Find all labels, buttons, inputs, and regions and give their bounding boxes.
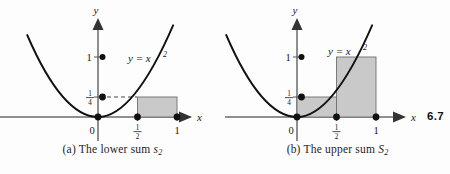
panel-b: y x 0 1 1 4 1 2 1 y = x 2 [225, 0, 450, 174]
x-tick-label-half-a: 1 2 [134, 124, 142, 141]
x-axis-arrow-b [393, 112, 406, 123]
curve-label-exponent-a: 2 [163, 50, 167, 59]
upper-sum-rectangle-b-2 [337, 57, 377, 117]
y-tick-quarter-numerator-a: 1 [88, 90, 92, 98]
caption-b: (b) The upper sum S2 [225, 143, 450, 157]
origin-label-a: 0 [89, 125, 94, 136]
x-tick-half-denominator-a: 2 [136, 133, 140, 141]
y-axis-arrow-b [292, 18, 303, 30]
x-tick-half-numerator-b: 1 [335, 124, 339, 132]
y-tick-quarter-denominator-a: 4 [88, 99, 92, 107]
origin-label-b: 0 [288, 125, 293, 136]
y-tick-quarter-denominator-b: 4 [287, 99, 291, 107]
y-tick-quarter-numerator-b: 1 [287, 90, 291, 98]
figure-6-7: y x 0 1 1 4 1 2 1 y = x 2 [0, 0, 450, 174]
caption-prefix-b: (b) [287, 143, 301, 155]
y-tick-label-quarter-a: 1 4 [86, 90, 94, 107]
dot-x-one-a [174, 114, 181, 121]
curve-label-exponent-b: 2 [363, 43, 367, 52]
caption-text-a: The lower sum [79, 143, 151, 155]
curve-label-text-a: y = x [127, 52, 151, 64]
caption-subscript-b: 2 [384, 148, 388, 157]
caption-subscript-a: 2 [158, 148, 162, 157]
x-axis-arrow-a [179, 112, 192, 123]
dot-y-quarter-b [298, 94, 305, 101]
caption-a: (a) The lower sum s2 [0, 143, 225, 157]
y-axis-label-b: y [292, 4, 298, 16]
y-tick-label-one-a: 1 [86, 52, 91, 63]
x-axis-label-b: x [410, 111, 416, 123]
dot-origin-a [95, 114, 102, 121]
dot-x-one-b [373, 114, 380, 121]
plot-a: y x 0 1 1 4 1 2 1 y = x 2 [0, 0, 225, 145]
dot-y-one-b [299, 54, 305, 60]
y-tick-label-quarter-b: 1 4 [285, 90, 293, 107]
dot-y-one-a [100, 54, 106, 60]
dot-origin-b [294, 114, 301, 121]
y-axis-arrow-a [93, 18, 104, 30]
caption-prefix-a: (a) [63, 143, 76, 155]
panel-a: y x 0 1 1 4 1 2 1 y = x 2 [0, 0, 225, 174]
x-tick-label-half-b: 1 2 [333, 124, 341, 141]
x-tick-half-denominator-b: 2 [335, 133, 339, 141]
x-tick-half-numerator-a: 1 [136, 124, 140, 132]
dot-x-half-b [333, 114, 340, 121]
y-axis-label-a: y [93, 4, 99, 16]
lower-sum-rectangle-a-1 [138, 97, 178, 117]
caption-text-b: The upper sum [304, 143, 376, 155]
dot-y-quarter-a [99, 94, 106, 101]
x-tick-label-one-a: 1 [174, 125, 179, 136]
x-axis-label-a: x [196, 111, 202, 123]
curve-label-text-b: y = x [327, 45, 351, 57]
x-tick-label-one-b: 1 [373, 125, 378, 136]
dot-x-half-a [134, 114, 141, 121]
y-tick-label-one-b: 1 [285, 52, 290, 63]
plot-b: y x 0 1 1 4 1 2 1 y = x 2 [225, 0, 450, 145]
figure-number: 6.7 [427, 110, 444, 122]
